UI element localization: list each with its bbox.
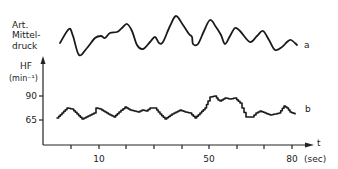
x-ticks: 105080 [71, 145, 298, 164]
series-a-label-line1: Art. [12, 20, 28, 30]
x-axis-unit: (sec) [304, 154, 326, 164]
series-b-trace [57, 96, 295, 119]
series-a-label-line2: Mittel- [12, 30, 41, 40]
x-tick-label: 10 [93, 154, 105, 164]
y-ticks: 9065 [26, 91, 43, 125]
hemodynamic-chart: Art. Mittel- druck HF (min⁻¹) 9065 t 105… [0, 0, 338, 169]
x-tick-label: 80 [286, 154, 298, 164]
series-b-marker: b [305, 104, 311, 114]
series-a-marker: a [304, 40, 310, 50]
series-a-trace [60, 16, 297, 55]
x-tick-label: 50 [203, 154, 215, 164]
y-tick-label: 90 [26, 91, 38, 101]
y-axis-unit: (min⁻¹) [9, 74, 38, 83]
x-axis-arrow-label: t [317, 138, 321, 148]
y-axis-arrow-icon [41, 56, 46, 64]
series-a-label-line3: druck [12, 41, 38, 51]
y-axis-label: HF [20, 61, 32, 71]
y-tick-label: 65 [26, 115, 37, 125]
x-axis-arrow-icon [305, 143, 314, 148]
